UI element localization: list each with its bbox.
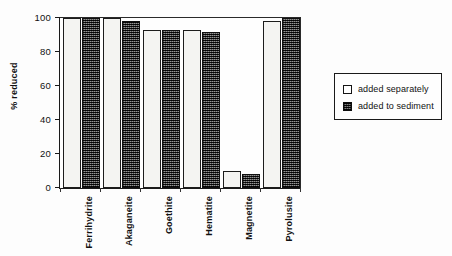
bar	[162, 30, 180, 188]
legend-item-added-to-sediment: added to sediment	[343, 101, 433, 111]
y-axis-tick-label: 0	[46, 182, 51, 193]
plot-area: 020406080100	[59, 17, 301, 189]
legend-swatch-open-icon	[343, 85, 352, 94]
bar	[223, 171, 241, 188]
x-axis-tick	[100, 188, 101, 192]
bar	[202, 32, 220, 188]
x-axis-tick	[60, 188, 61, 192]
bar	[183, 30, 201, 188]
x-axis-tick	[300, 188, 301, 192]
y-axis-tick-label: 60	[40, 80, 51, 91]
bars-layer	[60, 18, 300, 188]
legend-swatch-filled-icon	[343, 102, 352, 111]
x-axis-label: Pyrolusite	[284, 196, 294, 242]
x-axis-label: Hematite	[204, 196, 214, 236]
chart-legend: added separately added to sediment	[334, 73, 442, 120]
y-axis-tick-label: 80	[40, 46, 51, 57]
bar	[282, 18, 300, 188]
y-axis-tick-label: 20	[40, 148, 51, 159]
x-axis-label: Ferrihydrite	[84, 196, 94, 248]
chart-page: % reduced 020406080100 FerrihydriteAkaga…	[0, 0, 452, 256]
bar	[242, 174, 260, 188]
x-axis-tick	[140, 188, 141, 192]
bar	[122, 21, 140, 188]
bar	[103, 18, 121, 188]
x-axis-label: Magnetite	[244, 196, 254, 240]
x-axis-tick	[220, 188, 221, 192]
legend-item-label: added to sediment	[358, 101, 434, 111]
legend-item-label: added separately	[358, 84, 429, 94]
bar	[263, 21, 281, 188]
x-axis-tick	[180, 188, 181, 192]
x-axis-label: Goethite	[164, 196, 174, 234]
y-axis-tick-label: 40	[40, 114, 51, 125]
bar	[143, 30, 161, 188]
y-axis-title: % reduced	[9, 62, 19, 109]
x-axis-tick	[260, 188, 261, 192]
y-axis-tick-label: 100	[35, 12, 51, 23]
bar	[63, 18, 81, 188]
x-axis-label: Akaganeite	[124, 196, 134, 246]
legend-item-added-separately: added separately	[343, 84, 433, 94]
bar	[82, 18, 100, 188]
